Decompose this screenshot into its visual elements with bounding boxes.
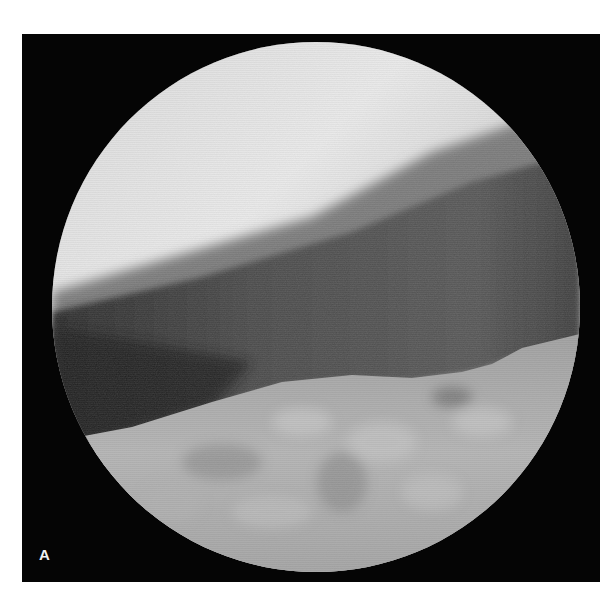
endoscopic-circular-view [52,42,580,572]
endoscopic-scene [52,42,580,572]
panel-label: A [39,547,50,562]
image-frame [22,34,600,582]
